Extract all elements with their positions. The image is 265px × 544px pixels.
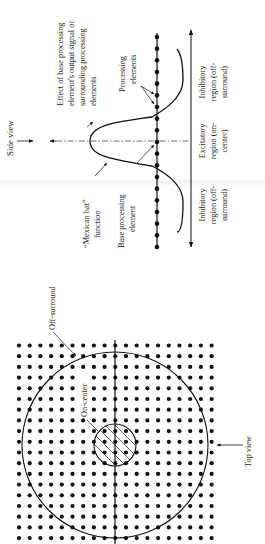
region-label-line: Inhibitory (198, 65, 207, 99)
on-center-label: On-center (80, 384, 89, 417)
grid-dot (81, 515, 85, 519)
top-view: Off-surround On-center Top view (17, 286, 253, 544)
grid-dot (210, 493, 214, 497)
grid-dot (124, 408, 128, 412)
grid-dot (167, 354, 171, 358)
grid-dot (177, 418, 181, 422)
grid-dot (188, 450, 192, 454)
grid-dot (60, 408, 64, 412)
processing-element-dot (155, 70, 160, 75)
grid-dot (17, 525, 21, 529)
grid-dot (70, 408, 74, 412)
grid-dot (188, 408, 192, 412)
grid-dot (81, 343, 85, 347)
grid-dot (145, 440, 149, 444)
grid-dot (156, 343, 160, 347)
grid-dot (188, 429, 192, 433)
grid-dot (199, 525, 203, 529)
grid-dot (210, 461, 214, 465)
grid-dot (70, 536, 74, 540)
grid-dot (49, 472, 53, 476)
region-label-line: region (on- (209, 122, 218, 159)
grid-dot (167, 461, 171, 465)
grid-dot (210, 418, 214, 422)
grid-dot (60, 536, 64, 540)
grid-dot (49, 483, 53, 487)
grid-dot (103, 343, 107, 347)
grid-dot (135, 376, 139, 380)
mexican-hat-label: “Mexican hat” function (82, 199, 102, 248)
grid-dot (81, 504, 85, 508)
region-label-inhibitory-left: Inhibitory region (off- surround) (198, 186, 229, 225)
grid-dot (124, 376, 128, 380)
grid-dot (28, 515, 32, 519)
grid-dot (210, 408, 214, 412)
grid-dot (70, 493, 74, 497)
processing-element-dot (155, 175, 160, 180)
region-label-line: center) (220, 129, 229, 152)
processing-pointer-2 (141, 86, 154, 104)
grid-dot (210, 354, 214, 358)
grid-dot (177, 450, 181, 454)
grid-dot (210, 376, 214, 380)
grid-dot (49, 408, 53, 412)
grid-dot (92, 515, 96, 519)
grid-dot (17, 429, 21, 433)
grid-dot (49, 354, 53, 358)
grid-dot (17, 440, 21, 444)
grid-dot (92, 472, 96, 476)
grid-dot (92, 536, 96, 540)
grid-dot (124, 440, 128, 444)
grid-dot (188, 354, 192, 358)
grid-dot (103, 365, 107, 369)
grid-dot (124, 483, 128, 487)
grid-dot (167, 429, 171, 433)
processing-elements-label-line: Processing (118, 56, 127, 92)
grid-dot (156, 504, 160, 508)
grid-dot (167, 408, 171, 412)
grid-dot (70, 450, 74, 454)
grid-dot (135, 461, 139, 465)
grid-dot (103, 397, 107, 401)
grid-dot (199, 386, 203, 390)
grid-dot (177, 408, 181, 412)
grid-dot (145, 386, 149, 390)
grid-dot (135, 472, 139, 476)
region-label-line: region (off- (209, 186, 218, 225)
grid-dot (156, 397, 160, 401)
processing-element-dot (155, 151, 160, 156)
grid-dot (199, 418, 203, 422)
grid-dot (60, 386, 64, 390)
grid-dot (199, 440, 203, 444)
grid-dot (38, 515, 42, 519)
grid-dot (167, 536, 171, 540)
grid-dot (124, 504, 128, 508)
grid-dot (177, 440, 181, 444)
grid-dot (167, 515, 171, 519)
grid-dot (103, 472, 107, 476)
processing-element-dot (155, 233, 160, 238)
grid-dot (28, 354, 32, 358)
grid-dot (210, 515, 214, 519)
base-element-label-line: Base processing (117, 194, 126, 248)
region-label-excitatory: Excitatory region (on- center) (198, 122, 229, 159)
processing-element-dot (155, 198, 160, 203)
grid-dot (81, 429, 85, 433)
grid-dot (167, 525, 171, 529)
grid-dot (167, 472, 171, 476)
grid-dot (145, 472, 149, 476)
grid-dot (70, 397, 74, 401)
grid-dot (124, 429, 128, 433)
processing-element-dot (155, 81, 160, 86)
grid-dot (60, 483, 64, 487)
grid-dot (38, 429, 42, 433)
grid-dot (188, 525, 192, 529)
grid-dot (188, 472, 192, 476)
processing-element-dot (155, 221, 160, 226)
grid-dot (60, 376, 64, 380)
grid-dot (38, 354, 42, 358)
grid-dot (145, 483, 149, 487)
grid-dot (92, 386, 96, 390)
grid-dot (28, 493, 32, 497)
grid-dot (38, 376, 42, 380)
